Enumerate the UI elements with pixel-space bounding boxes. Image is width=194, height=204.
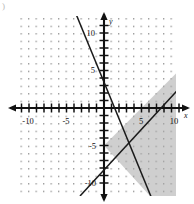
y-tick-label-5: 5 xyxy=(91,65,95,75)
x-tick-label-10: 10 xyxy=(170,116,179,126)
x-tick-label-neg10: -10 xyxy=(22,116,33,126)
y-tick-label-10: 10 xyxy=(87,28,96,38)
y-axis-name: y xyxy=(108,17,113,26)
x-tick-label-neg5: -5 xyxy=(62,116,69,126)
x-tick-label-5: 5 xyxy=(139,116,143,126)
coordinate-plane: -10 -5 5 10 10 5 -5 -10 y x xyxy=(0,0,194,204)
y-tick-label-neg10: -10 xyxy=(85,178,96,188)
x-axis-name: x xyxy=(183,111,188,120)
graph-figure: ) xyxy=(0,0,194,204)
y-tick-label-neg5: -5 xyxy=(89,141,96,151)
